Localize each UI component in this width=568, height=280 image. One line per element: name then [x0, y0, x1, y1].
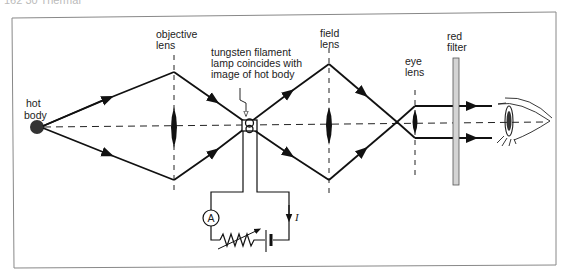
eye-lens	[413, 110, 418, 134]
optical-axis	[44, 122, 545, 127]
ammeter-label: A	[208, 212, 215, 224]
objective-lens	[171, 107, 177, 148]
current-label: I	[294, 211, 300, 223]
red-filter-label: red filter	[447, 30, 467, 53]
field-lens-label: field lens	[320, 27, 342, 50]
eye-lens-label: eye lens	[405, 55, 425, 78]
pyrometer-diagram: I A hot body objective lens tungsten fil…	[0, 0, 568, 280]
red-filter	[453, 58, 459, 185]
tungsten-filament-lamp	[242, 119, 257, 133]
hot-body-label: hot body	[24, 97, 48, 121]
lamp-circuit	[211, 131, 289, 252]
field-lens	[326, 107, 332, 145]
objective-lens-label: objective lens	[156, 28, 200, 51]
rays	[43, 64, 492, 180]
tungsten-filament-label: tungsten filament lamp coincides with im…	[211, 46, 305, 80]
hot-body	[30, 120, 44, 134]
filament-pointer	[240, 88, 246, 116]
